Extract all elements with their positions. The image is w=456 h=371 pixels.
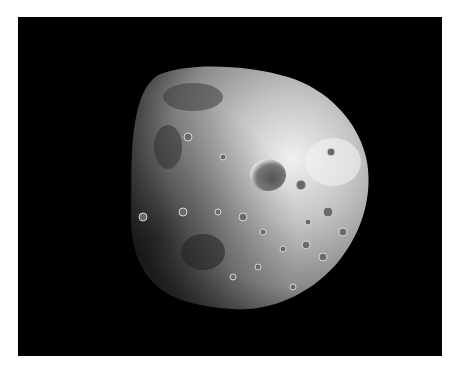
moon-image xyxy=(18,17,442,356)
space-background xyxy=(18,17,442,356)
